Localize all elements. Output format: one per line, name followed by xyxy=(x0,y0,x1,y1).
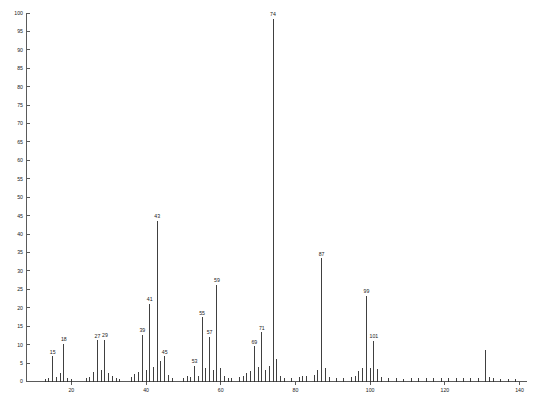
y-axis-tick-label: 100 xyxy=(14,10,23,16)
y-axis-tick-label: 35 xyxy=(17,249,23,255)
peak-label: 69 xyxy=(251,339,257,345)
peak-label: 74 xyxy=(270,11,276,17)
mass-spectrum-chart: 0510152025303540455055606570758085909510… xyxy=(0,0,533,416)
peak-label: 59 xyxy=(214,277,220,283)
peak-label: 41 xyxy=(147,296,153,302)
y-axis-tick-label: 55 xyxy=(17,176,23,182)
spectrum-plot-area: 0510152025303540455055606570758085909510… xyxy=(0,0,533,416)
y-axis-tick-label: 75 xyxy=(17,102,23,108)
peak-label: 87 xyxy=(319,251,325,257)
y-axis-tick-label: 30 xyxy=(17,268,23,274)
y-axis-ticks: 0510152025303540455055606570758085909510… xyxy=(14,10,29,385)
y-axis-tick-label: 20 xyxy=(17,305,23,311)
x-axis-tick-label: 60 xyxy=(218,387,224,393)
y-axis-tick-label: 45 xyxy=(17,213,23,219)
peak-label: 101 xyxy=(370,333,379,339)
y-axis-tick-label: 85 xyxy=(17,65,23,71)
peak-label-group: 1518272939414345535557596971748799101 xyxy=(50,11,379,364)
y-axis-tick-label: 50 xyxy=(17,194,23,200)
y-axis-tick-label: 40 xyxy=(17,231,23,237)
peak-label: 71 xyxy=(259,325,265,331)
y-axis-tick-label: 5 xyxy=(20,360,23,366)
x-axis-tick-label: 80 xyxy=(293,387,299,393)
x-axis-tick-label: 120 xyxy=(441,387,450,393)
y-axis-tick-label: 10 xyxy=(17,342,23,348)
peak-label: 45 xyxy=(162,349,168,355)
x-axis-tick-label: 140 xyxy=(515,387,524,393)
peak-label: 53 xyxy=(192,358,198,364)
y-axis-tick-label: 70 xyxy=(17,120,23,126)
peak-series xyxy=(45,19,516,382)
peak-label: 57 xyxy=(207,329,213,335)
y-axis: 0510152025303540455055606570758085909510… xyxy=(14,10,29,385)
x-axis-tick-label: 20 xyxy=(68,387,74,393)
y-axis-tick-label: 65 xyxy=(17,139,23,145)
peak-label: 15 xyxy=(50,349,56,355)
peak-label: 27 xyxy=(95,333,101,339)
y-axis-tick-label: 0 xyxy=(20,378,23,384)
peak-label: 43 xyxy=(154,213,160,219)
peak-label: 99 xyxy=(364,288,370,294)
peak-label: 39 xyxy=(139,327,145,333)
y-axis-tick-label: 60 xyxy=(17,157,23,163)
peak-label: 29 xyxy=(102,332,108,338)
x-axis: 20406080100120140 xyxy=(27,382,528,394)
y-axis-tick-label: 95 xyxy=(17,28,23,34)
y-axis-tick-label: 80 xyxy=(17,84,23,90)
peak-label: 18 xyxy=(61,336,67,342)
x-axis-tick-label: 100 xyxy=(366,387,375,393)
y-axis-tick-label: 15 xyxy=(17,323,23,329)
x-axis-ticks: 20406080100120140 xyxy=(68,382,524,394)
y-axis-tick-label: 90 xyxy=(17,47,23,53)
y-axis-tick-label: 25 xyxy=(17,286,23,292)
x-axis-tick-label: 40 xyxy=(143,387,149,393)
peak-label: 55 xyxy=(199,310,205,316)
